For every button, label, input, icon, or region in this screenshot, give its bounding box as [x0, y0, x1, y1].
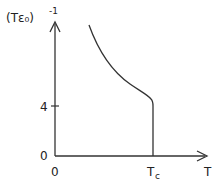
- tick-label-4: 4: [40, 100, 48, 114]
- y-axis-label-superscript: -1: [49, 6, 58, 16]
- tick-label-tc-subscript: c: [155, 171, 160, 181]
- origin-y-label: 0: [40, 149, 48, 163]
- origin-x-label: 0: [51, 165, 59, 179]
- chart-canvas: (Tε₀) -1 4 0 0 T c T: [0, 0, 223, 185]
- y-axis-label: (Tε₀): [6, 11, 34, 25]
- data-curve: [89, 25, 153, 156]
- tick-label-tc: T: [146, 165, 155, 179]
- x-axis-label: T: [203, 165, 212, 179]
